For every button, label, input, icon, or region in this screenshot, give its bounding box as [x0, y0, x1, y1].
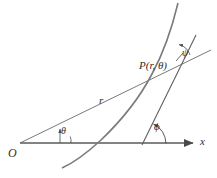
diagram-canvas [0, 0, 217, 178]
radius-label: r [99, 95, 103, 106]
x-axis-label: x [200, 136, 205, 147]
polar-tangent-diagram: O x θ ϕ ψ r P(r, θ) [0, 0, 217, 178]
theta-angle-label: θ [61, 126, 66, 136]
origin-label: O [8, 147, 17, 159]
phi-angle-label: ϕ [154, 121, 160, 132]
psi-angle-label: ψ [182, 48, 188, 58]
point-p-label: P(r, θ) [139, 60, 167, 71]
theta-angle-arc [70, 137, 71, 144]
